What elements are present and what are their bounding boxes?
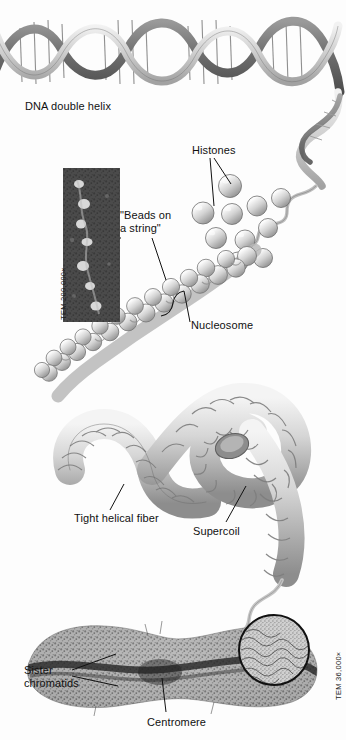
label-histones: Histones [192,144,236,157]
tem-beads-content [63,168,120,322]
label-centromere: Centromere [147,716,206,729]
label-dna-double-helix: DNA double helix [25,100,111,113]
label-supercoil: Supercoil [193,525,240,538]
tem-magnification-chromosome: TEM 36,000× [334,651,343,700]
label-beads-on-a-string: "Beads on a string" [120,209,171,235]
label-tight-helical-fiber: Tight helical fiber [74,512,159,525]
dna-packaging-figure: DNA double helix Histones "Beads on a st… [0,0,346,740]
label-sister-chromatids: Sister chromatids [24,664,79,690]
tem-micrograph-beads-on-a-string [63,168,120,322]
label-nucleosome: Nucleosome [191,319,253,332]
tem-magnification-beads: TEM 200,000× [59,267,68,320]
